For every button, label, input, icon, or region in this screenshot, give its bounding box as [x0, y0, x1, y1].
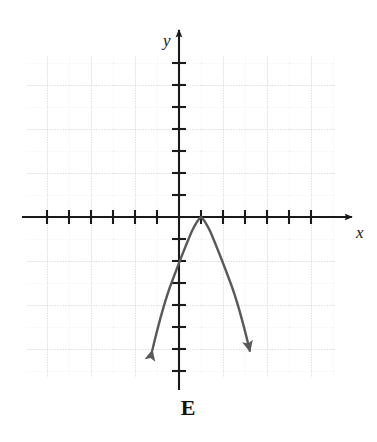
graph-figure: y x E	[0, 0, 377, 442]
y-axis-label: y	[161, 31, 171, 50]
x-axis-label: x	[355, 223, 364, 242]
coordinate-plane-svg: y x E	[0, 0, 377, 442]
choice-label-e: E	[181, 395, 196, 420]
